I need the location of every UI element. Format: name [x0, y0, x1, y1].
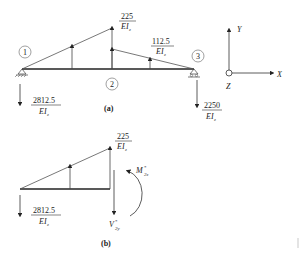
node-1: 1: [19, 46, 31, 58]
svg-text:1: 1: [23, 48, 27, 57]
coordinate-axes: Y X Z: [226, 25, 283, 91]
load-line-right: [112, 49, 194, 69]
moment-label: M * 2z: [135, 165, 149, 177]
reaction-label-left: 2812.5 EI z: [31, 96, 61, 117]
svg-text:2y: 2y: [115, 226, 121, 231]
node-3: 3: [192, 50, 204, 62]
caption-b: (b): [101, 239, 111, 248]
svg-text:225: 225: [117, 132, 129, 141]
svg-text:EI: EI: [116, 142, 125, 151]
svg-text:*: *: [115, 219, 118, 224]
reaction-label-b-left: 2812.5 EI z: [31, 206, 61, 227]
load-label-peak: 225 EI z: [119, 12, 136, 32]
z-axis-label: Z: [226, 82, 231, 91]
shear-label: V * 2y: [109, 219, 121, 231]
svg-text:225: 225: [121, 12, 133, 21]
load-label-right: 112.5 EI z: [151, 37, 174, 57]
svg-text:EI: EI: [38, 217, 47, 226]
svg-text:*: *: [144, 165, 147, 170]
caption-a: (a): [104, 104, 114, 113]
x-axis-label: X: [276, 70, 283, 79]
svg-text:2250: 2250: [204, 101, 220, 110]
reaction-label-right: 2250 EI z: [202, 101, 222, 122]
load-line-b: [20, 148, 110, 189]
svg-text:z: z: [46, 222, 49, 227]
svg-text:M: M: [135, 166, 144, 175]
diagram-b: 225 EI z 2812.5 EI z V * 2y M * 2z (b): [20, 132, 149, 248]
svg-text:z: z: [46, 112, 49, 117]
roller-support-3: [188, 69, 200, 77]
svg-text:2812.5: 2812.5: [33, 96, 55, 105]
svg-text:3: 3: [196, 52, 200, 61]
load-label-b-peak: 225 EI z: [115, 132, 132, 152]
diagram-canvas: 1 2 3 225 EI z 112.5 EI z 2812.5: [0, 0, 300, 256]
svg-text:2: 2: [110, 80, 114, 89]
svg-text:2812.5: 2812.5: [33, 206, 55, 215]
svg-text:z: z: [128, 27, 131, 32]
svg-text:z: z: [213, 117, 216, 122]
svg-text:z: z: [124, 147, 127, 152]
y-axis-label: Y: [237, 25, 243, 34]
svg-text:EI: EI: [155, 47, 164, 56]
svg-text:EI: EI: [205, 112, 214, 121]
pin-support-1: [15, 69, 28, 77]
moment-arrow-icon: [128, 171, 142, 216]
z-axis-origin-icon: [226, 70, 232, 76]
svg-text:EI: EI: [120, 22, 129, 31]
diagram-a: 1 2 3 225 EI z 112.5 EI z 2812.5: [15, 12, 222, 122]
svg-text:EI: EI: [38, 107, 47, 116]
svg-text:2z: 2z: [144, 172, 149, 177]
svg-text:112.5: 112.5: [152, 37, 170, 46]
load-line-left: [22, 28, 112, 69]
svg-text:z: z: [163, 52, 166, 57]
node-2: 2: [106, 78, 118, 90]
